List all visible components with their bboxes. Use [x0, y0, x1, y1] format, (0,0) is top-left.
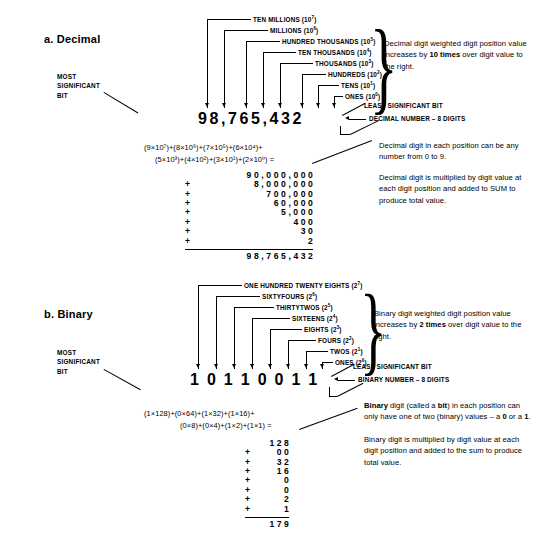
binary-sum-block: 1 2 8 +0 0 +3 2 +1 6 +0 +0 +2 +1 1 7 9 [245, 438, 289, 529]
decimal-digit-1: 8 [210, 110, 222, 128]
binary-sum-value-4: 0 [255, 476, 289, 485]
decimal-sum-total-row: 9 8 , 7 6 5 , 4 3 2 [185, 250, 313, 261]
decimal-sum-op-6: + [185, 226, 195, 235]
decimal-comma-0: , [221, 110, 228, 128]
binary-arrow-5 [268, 364, 272, 368]
binary-sum-value-1: 0 0 [255, 447, 289, 456]
decimal-sum-op-5: + [185, 217, 195, 226]
decimal-sum-value-5: 4 0 0 [195, 217, 313, 226]
decimal-msb-leader-line [103, 92, 138, 113]
binary-sum-row: +0 0 [245, 447, 289, 456]
decimal-run-8 [334, 96, 343, 97]
decimal-sum-op-7: + [185, 236, 195, 245]
binary-callout1-stem [329, 387, 330, 396]
decimal-sum-op-4: + [185, 208, 195, 217]
decimal-run-2 [224, 30, 268, 31]
decimal-digit-3: 6 [240, 110, 252, 128]
decimal-callout1-run [340, 134, 350, 135]
binary-arrow-1 [196, 364, 200, 368]
binary-place-label-6: TWOS (21) [330, 347, 363, 356]
binary-sum-row: +1 6 [245, 466, 289, 475]
decimal-sum-value-2: 7 0 0 , 0 0 0 [195, 189, 313, 198]
decimal-sum-op-1: + [185, 179, 195, 188]
decimal-sum-row: 9 0 , 0 0 0 , 0 0 0 [185, 170, 313, 179]
binary-digit-0: 1 [190, 371, 207, 389]
binary-callout1-run [329, 396, 337, 397]
decimal-sum-value-0: 9 0 , 0 0 0 , 0 0 0 [195, 170, 313, 179]
binary-digits-row: 10110011 [190, 371, 325, 389]
decimal-place-label-4: THOUSANDS (103) [315, 59, 373, 68]
binary-place-label-0: ONE HUNDRED TWENTY EIGHTS (27) [244, 281, 362, 290]
binary-sum-total-row: 1 7 9 [245, 518, 289, 529]
binary-digit-7: 1 [308, 371, 325, 389]
binary-callout1-leader [337, 383, 363, 397]
decimal-sum-row: +3 0 [185, 226, 313, 235]
decimal-sum-value-3: 6 0 , 0 0 0 [195, 198, 313, 207]
decimal-number-arrow-line [349, 119, 366, 120]
decimal-arrow-5 [278, 103, 282, 107]
decimal-arrow-2 [222, 103, 226, 107]
decimal-sum-op-0 [185, 170, 195, 179]
decimal-brace-note: Decimal digit weighted digit position va… [384, 38, 534, 72]
binary-equation-line-1: (1×128)+(0×64)+(1×32)+(1×16)+ [144, 409, 255, 418]
decimal-equation-line-1: (9×10⁷)+(8×10⁶)+(7×10⁵)+(6×10⁴)+ [144, 143, 263, 152]
binary-sum-value-0: 1 2 8 [255, 438, 289, 447]
binary-sum-op-7: + [245, 504, 255, 513]
decimal-lsb-leader-line [342, 103, 365, 116]
binary-sum-op-6: + [245, 494, 255, 503]
decimal-sum-row: +5 , 0 0 0 [185, 208, 313, 217]
binary-sum-row: +0 [245, 485, 289, 494]
decimal-arrow-7 [316, 103, 320, 107]
binary-sum-op-0 [245, 438, 255, 447]
decimal-callout-1: Decimal digit in each position can be an… [379, 140, 531, 163]
decimal-digit-0: 9 [198, 110, 210, 128]
binary-run-5 [270, 329, 302, 330]
decimal-digit-5: 4 [270, 110, 282, 128]
decimal-arrow-4 [261, 103, 265, 107]
decimal-sum-total: 9 8 , 7 6 5 , 4 3 2 [195, 250, 313, 261]
decimal-sum-op-3: + [185, 198, 195, 207]
binary-digit-5: 0 [275, 371, 292, 389]
section-header-decimal: a. Decimal [44, 33, 100, 45]
binary-equation-line-2: (0×8)+(0×4)+(1×2)+(1×1) = [180, 421, 272, 430]
binary-sum-op-1: + [245, 447, 255, 456]
binary-stem-2 [216, 296, 217, 369]
binary-sum-value-7: 1 [255, 504, 289, 513]
binary-most-significant-bit-label: MOST SIGNIFICANT BIT [57, 348, 100, 376]
binary-digit-1: 0 [207, 371, 224, 389]
binary-sum-row: +2 [245, 494, 289, 503]
decimal-run-1 [207, 19, 251, 20]
binary-stem-3 [234, 307, 235, 369]
binary-sum-row: 1 2 8 [245, 438, 289, 447]
decimal-sum-row: +4 0 0 [185, 217, 313, 226]
binary-sum-row: +0 [245, 476, 289, 485]
binary-lsb-label: LEAST SIGNIFICANT BIT [353, 363, 432, 371]
binary-number-arrow-line [338, 380, 355, 381]
binary-sum-value-6: 2 [255, 494, 289, 503]
binary-digit-3: 1 [241, 371, 258, 389]
decimal-callout1-stem [340, 126, 341, 134]
decimal-equation-line-2: (5×10³)+(4×10²)+(3×10¹)+(2×10⁰) = [155, 155, 274, 164]
binary-sum-value-5: 0 [255, 485, 289, 494]
decimal-arrow-3 [244, 103, 248, 107]
binary-callout2-leader [299, 408, 358, 430]
binary-sum-row: +3 2 [245, 457, 289, 466]
binary-digit-6: 1 [291, 371, 308, 389]
decimal-digit-6: 3 [281, 110, 293, 128]
decimal-sum-row: +6 0 , 0 0 0 [185, 198, 313, 207]
decimal-run-6 [302, 74, 326, 75]
decimal-sum-block: 9 0 , 0 0 0 , 0 0 0 +8 , 0 0 0 , 0 0 0 +… [185, 170, 313, 261]
binary-arrow-3 [232, 364, 236, 368]
decimal-stem-4 [263, 52, 264, 108]
binary-sum-op-2: + [245, 457, 255, 466]
decimal-run-7 [318, 85, 339, 86]
binary-run-6 [288, 340, 316, 341]
decimal-digit-4: 5 [251, 110, 263, 128]
binary-run-3 [234, 307, 274, 308]
decimal-sum-value-6: 3 0 [195, 226, 313, 235]
binary-arrow-2 [214, 364, 218, 368]
binary-run-1 [198, 285, 242, 286]
binary-stem-1 [198, 285, 199, 369]
decimal-callout2-leader [312, 140, 372, 164]
decimal-callout-2: Decimal digit is multiplied by digit val… [379, 172, 534, 206]
